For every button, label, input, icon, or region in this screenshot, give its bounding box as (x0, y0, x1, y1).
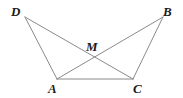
geometry-figure: D B M A C (0, 0, 183, 98)
vertex-label-a: A (48, 82, 57, 95)
vertex-label-d: D (11, 5, 20, 18)
vertex-label-b: B (163, 5, 172, 18)
segment-BA (57, 17, 163, 79)
vertex-label-c: C (133, 82, 142, 95)
vertex-label-m: M (86, 40, 98, 53)
